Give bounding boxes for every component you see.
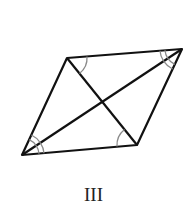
rhombus-diagram — [0, 0, 187, 209]
figure-label: III — [0, 184, 187, 206]
